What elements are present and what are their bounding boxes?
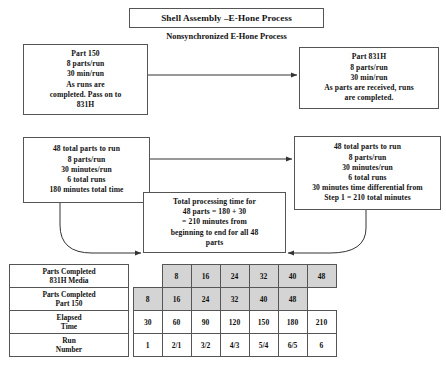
box-total-line-1: Total processing time for [173, 197, 256, 207]
table-cell-parts-completed-part-150: 8 [134, 288, 163, 311]
box-step-2-line-2: 8 parts/run [349, 153, 387, 163]
box-step-2-line-1: 48 total parts to run [334, 142, 401, 152]
box-part-150-line-4: As runs are [66, 80, 105, 90]
box-part-150-line-1: Part 150 [71, 49, 99, 59]
table-cell-parts-completed-831h-media: 24 [220, 265, 249, 288]
table-cell-empty [134, 265, 163, 288]
table-cell-run-number: 6/5 [278, 334, 307, 357]
box-step-1-line-2: 8 parts/run [68, 155, 106, 165]
table-cell-elapsed-time: 60 [162, 311, 191, 334]
table-cell-parts-completed-831h-media: 48 [307, 265, 336, 288]
row-label-elapsed-time: ElapsedTime [10, 311, 129, 334]
table-cell-elapsed-time: 210 [307, 311, 336, 334]
table-cell-elapsed-time: 90 [191, 311, 220, 334]
row-label-row: ElapsedTime [10, 311, 129, 334]
box-step-1-line-4: 6 total runs [67, 175, 105, 185]
box-total-line-5: parts [206, 238, 223, 248]
table-cell-run-number: 1 [134, 334, 163, 357]
box-total-line-2: 48 parts = 180 + 30 [183, 207, 247, 217]
table-cell-empty [307, 288, 336, 311]
table-cell-elapsed-time: 30 [134, 311, 163, 334]
table-cell-parts-completed-831h-media: 40 [278, 265, 307, 288]
box-step-1-line-5: 180 minutes total time [49, 185, 123, 195]
box-part-831h-line-3: 30 min/run [350, 73, 387, 83]
box-part-831h-line-4: As parts are received, runs [324, 83, 414, 93]
row-label-row: Parts CompletedPart 150 [10, 288, 129, 311]
row-label-parts-completed-part-150: Parts CompletedPart 150 [10, 288, 129, 311]
box-step-2-line-5: 30 minutes time differential from [312, 183, 423, 193]
table-cell-elapsed-time: 150 [249, 311, 278, 334]
box-total-processing-time: Total processing time for 48 parts = 180… [143, 192, 286, 253]
box-step-2-totals: 48 total parts to run 8 parts/run 30 min… [294, 136, 441, 210]
box-total-line-3: = 210 minutes from [182, 217, 247, 227]
table-cell-run-number: 4/3 [220, 334, 249, 357]
box-part-150-line-2: 8 parts/run [67, 59, 105, 69]
diagram-title-box: Shell Assembly –E-Hone Process [129, 8, 324, 28]
box-step-2-line-4: 6 total runs [348, 173, 386, 183]
box-part-831h: Part 831H 8 parts/run 30 min/run As part… [299, 47, 439, 109]
row-label-parts-completed-831h-media: Parts Completed831H Media [10, 265, 129, 288]
diagram-subtitle: Nonsynchronized E-Hone Process [129, 32, 324, 41]
table-cell-run-number: 3/2 [191, 334, 220, 357]
table-cell-parts-completed-part-150: 40 [249, 288, 278, 311]
box-part-150-line-6: 831H [77, 100, 95, 110]
page-title: Shell Assembly –E-Hone Process [161, 13, 292, 24]
schedule-table-body: 8162432404881624324048306090120150180210… [134, 265, 337, 357]
box-part-831h-line-2: 8 parts/run [350, 63, 388, 73]
table-cell-parts-completed-part-150: 16 [162, 288, 191, 311]
table-row: 306090120150180210 [134, 311, 337, 334]
row-label-row: RunNumber [10, 334, 129, 357]
box-step-1-totals: 48 total parts to run 8 parts/run 30 min… [23, 137, 150, 203]
table-cell-parts-completed-831h-media: 16 [191, 265, 220, 288]
box-part-150-line-3: 30 min/run [67, 69, 104, 79]
box-total-line-4: beginning to end for all 48 [171, 228, 259, 238]
box-step-1-line-3: 30 minutes/run [61, 165, 112, 175]
schedule-table: 8162432404881624324048306090120150180210… [133, 264, 337, 357]
box-step-2-line-3: 30 minutes/run [342, 163, 393, 173]
row-label-run-number: RunNumber [10, 334, 129, 357]
table-cell-run-number: 2/1 [162, 334, 191, 357]
table-cell-parts-completed-831h-media: 32 [249, 265, 278, 288]
table-cell-elapsed-time: 180 [278, 311, 307, 334]
table-cell-run-number: 5/4 [249, 334, 278, 357]
arrow-step2-to-total [288, 210, 366, 253]
table-row-labels: Parts Completed831H MediaParts Completed… [9, 264, 129, 357]
table-row: 81624324048 [134, 288, 337, 311]
box-part-831h-line-1: Part 831H [352, 52, 386, 62]
box-part-150: Part 150 8 parts/run 30 min/run As runs … [23, 44, 148, 115]
table-row: 12/13/24/35/46/56 [134, 334, 337, 357]
diagram-canvas: Shell Assembly –E-Hone Process Nonsynchr… [0, 0, 446, 376]
table-row: 81624324048 [134, 265, 337, 288]
box-part-831h-line-5: are completed. [345, 93, 394, 103]
table-row-labels-body: Parts Completed831H MediaParts Completed… [10, 265, 129, 357]
box-part-150-line-5: completed. Pass on to [50, 90, 122, 100]
table-cell-parts-completed-831h-media: 8 [162, 265, 191, 288]
table-cell-elapsed-time: 120 [220, 311, 249, 334]
box-step-1-line-1: 48 total parts to run [53, 144, 120, 154]
arrow-step1-to-total [60, 203, 141, 253]
table-cell-run-number: 6 [307, 334, 336, 357]
table-cell-parts-completed-part-150: 32 [220, 288, 249, 311]
table-cell-parts-completed-part-150: 48 [278, 288, 307, 311]
row-label-row: Parts Completed831H Media [10, 265, 129, 288]
table-cell-parts-completed-part-150: 24 [191, 288, 220, 311]
box-step-2-line-6: Step 1 = 210 total minutes [324, 193, 410, 203]
